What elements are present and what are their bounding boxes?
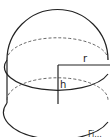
hemisphere-outline <box>7 10 108 61</box>
figure-caption: Fi... <box>88 130 102 137</box>
radius-label: r <box>83 53 88 64</box>
height-label: h <box>60 79 66 90</box>
hemisphere-cylinder-diagram: r h Fi... <box>0 0 110 137</box>
dome-equator-back-dashed <box>7 38 108 60</box>
